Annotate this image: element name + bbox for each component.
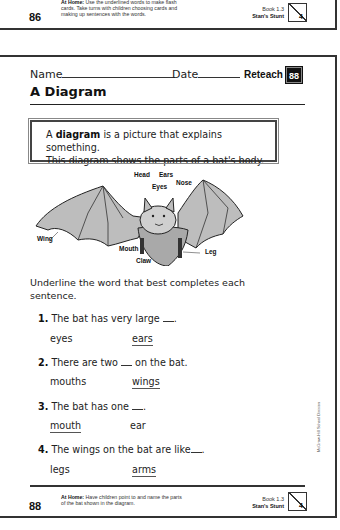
definition-line-2: This diagram shows the parts of a bat's … <box>46 154 275 167</box>
label-ears: Ears <box>159 171 173 178</box>
question-text: The bat has one <box>51 401 132 412</box>
story-label: Stan's Stunt <box>252 13 284 19</box>
blank <box>132 409 143 410</box>
question-text-end: . <box>202 444 205 455</box>
previous-page-number: 86 <box>29 11 41 23</box>
question-number: 2. <box>38 357 48 368</box>
bat-diagram: Head Ears Eyes Nose Wing Mouth Claw Leg <box>28 168 268 266</box>
label-claw: Claw <box>136 257 151 264</box>
definition-term: diagram <box>56 129 101 140</box>
footer-book-info: Book 1.3 Stan's Stunt <box>246 496 284 510</box>
question-text-end: . <box>174 313 177 324</box>
question-number: 3. <box>38 401 48 412</box>
date-label: Date <box>172 68 198 81</box>
previous-page-book-info: Book 1.3 Stan's Stunt <box>246 6 284 20</box>
definition-prefix: A <box>46 129 56 140</box>
question-number: 1. <box>38 313 48 324</box>
blank <box>121 365 132 366</box>
unit-box: 4 <box>288 492 307 511</box>
question-text: There are two <box>51 357 121 368</box>
unit-number: 4 <box>299 502 303 509</box>
book-label: Book 1.3 <box>246 6 284 13</box>
date-field: Date <box>172 68 240 81</box>
unit-box: 4 <box>288 3 307 22</box>
question-text-end: on the bat. <box>132 357 188 368</box>
definition-line-1: A diagram is a picture that explains som… <box>46 128 275 154</box>
page-badge: 88 <box>286 67 302 83</box>
option-eyes[interactable]: eyes <box>50 333 72 344</box>
footer-at-home-note: At Home: Have children point to and name… <box>61 494 186 506</box>
bat-illustration-icon <box>28 168 268 266</box>
option-mouth-underlined[interactable]: mouth <box>50 420 81 433</box>
name-label: Name <box>30 68 62 81</box>
definition-box: A diagram is a picture that explains som… <box>30 120 277 162</box>
at-home-label: At Home: <box>61 494 84 500</box>
option-mouths[interactable]: mouths <box>50 376 86 387</box>
unit-number: 4 <box>299 13 303 20</box>
footer-rule <box>30 485 305 487</box>
side-credit: McGraw-Hill School Division <box>316 402 321 452</box>
instructions: Underline the word that best completes e… <box>30 276 250 302</box>
blank <box>163 321 174 322</box>
label-eyes: Eyes <box>152 183 167 190</box>
option-ear[interactable]: ear <box>130 420 146 431</box>
label-mouth: Mouth <box>119 245 139 252</box>
label-head: Head <box>134 171 150 178</box>
question-4: 4. The wings on the bat are like. <box>38 444 205 455</box>
question-3: 3. The bat has one . <box>38 401 146 412</box>
name-line <box>62 77 175 78</box>
page-title: A Diagram <box>30 84 107 99</box>
blank <box>191 452 202 453</box>
question-text: The wings on the bat are like <box>51 444 190 455</box>
book-label: Book 1.3 <box>246 496 284 503</box>
footer-page-number: 88 <box>29 500 41 512</box>
question-text: The bat has very large <box>51 313 162 324</box>
previous-page-at-home-note: At Home: Use the underlined words to mak… <box>61 0 186 18</box>
label-nose: Nose <box>176 179 192 186</box>
reteach-label: Reteach <box>244 69 283 80</box>
question-1: 1. The bat has very large . <box>38 313 177 324</box>
box-top-rule <box>30 118 277 119</box>
option-legs[interactable]: legs <box>50 464 70 475</box>
question-number: 4. <box>38 444 48 455</box>
label-wing: Wing <box>37 235 53 242</box>
question-text-end: . <box>143 401 146 412</box>
name-field: Name <box>30 68 175 81</box>
date-line <box>198 77 240 78</box>
question-2: 2. There are two on the bat. <box>38 357 188 368</box>
option-arms-underlined[interactable]: arms <box>132 464 156 477</box>
title-rule <box>30 104 305 105</box>
label-leg: Leg <box>205 248 217 255</box>
option-ears-underlined[interactable]: ears <box>132 333 153 346</box>
option-wings-underlined[interactable]: wings <box>132 376 160 389</box>
story-label: Stan's Stunt <box>252 503 284 509</box>
